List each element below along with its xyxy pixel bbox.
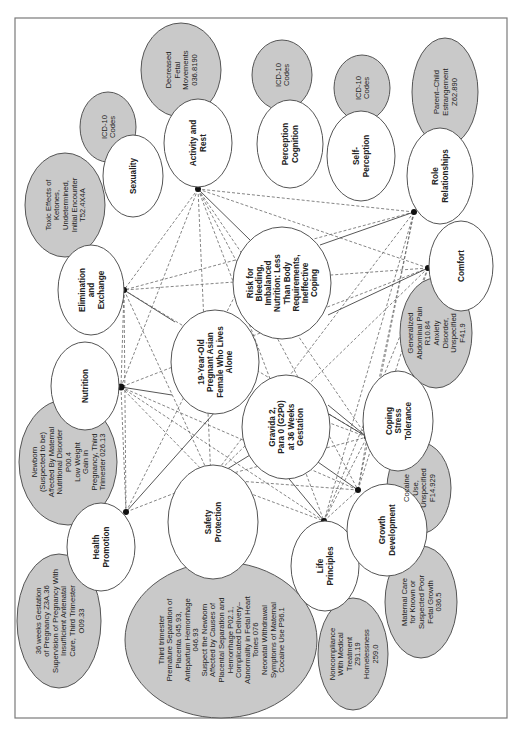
sexuality-label: Sexuality — [129, 158, 138, 194]
perception-codes-label: ICD-10Codes — [274, 63, 292, 87]
obstetric-label: Gravida 2,Para 0 (G2P0)at 36 WeeksGestat… — [268, 400, 305, 454]
comfort-label: Comfort — [457, 250, 466, 282]
selfperc-codes-label: ICD-10Codes — [354, 76, 372, 100]
activity-codes-label: DecreasedFetalMovements036.8190 — [164, 50, 199, 89]
concept-map-diagram: 19-Year-OldPregnant AsianFemale Who Live… — [0, 0, 523, 735]
sexuality-codes-label: ICD-10Codes — [100, 115, 118, 139]
perception-label: PerceptionCognition — [281, 123, 300, 165]
nutrition-label: Nutrition — [81, 369, 90, 403]
coping-codes-label: CocaineUse,UnspecifiedF14.929 — [402, 468, 437, 508]
